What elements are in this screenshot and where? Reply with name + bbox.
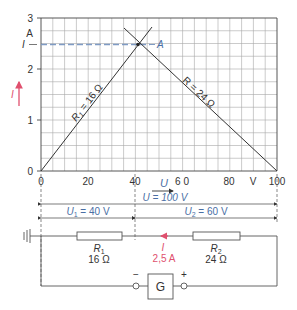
dimension-u-total-label: U = 100 V [143, 192, 189, 203]
y-tick-0: 0 [27, 166, 33, 177]
line-r2-label: R = 24 Ω [181, 74, 218, 110]
r1-value-label: 16 Ω [88, 254, 110, 265]
generator-minus-label: − [133, 269, 139, 280]
circuit-current-value: 2,5 A [153, 253, 176, 264]
current-marker-label: I [22, 39, 25, 50]
r2-value-label: 24 Ω [205, 254, 227, 265]
operating-point-label: A [156, 39, 164, 50]
y-unit-label: A [26, 28, 33, 39]
dimension-u1-label: U1 = 40 V [66, 206, 109, 218]
circuit [24, 229, 277, 299]
current-axis-label: I [11, 89, 14, 100]
x-tick-80: 80 [223, 176, 235, 187]
circuit-current-label: I [162, 242, 165, 253]
y-tick-1: 1 [27, 115, 33, 126]
x-tick-20: 20 [82, 176, 94, 187]
voltage-axis-label: U [160, 177, 168, 189]
y-tick-2: 2 [27, 64, 33, 75]
generator-plus-label: + [181, 269, 187, 280]
dimension-u2-label: U2 = 60 V [184, 206, 227, 218]
generator-label: G [156, 280, 165, 294]
x-unit-label: V [250, 176, 257, 187]
y-tick-3: 3 [27, 13, 33, 24]
resistor-diagram: 3 A 2 1 0 I A I R1 = 16 Ω R = 24 Ω 0 20 … [0, 0, 297, 310]
x-tick-60: 6 0 [175, 176, 189, 187]
